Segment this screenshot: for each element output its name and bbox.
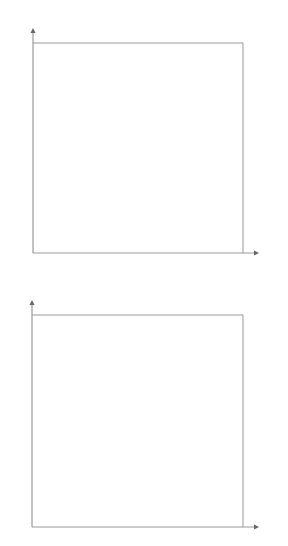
- top-y-arrow-icon: [31, 28, 36, 33]
- figure: [0, 0, 288, 546]
- top-chart: [0, 0, 259, 256]
- top-x-arrow-icon: [254, 251, 259, 256]
- bottom-x-arrow-icon: [254, 525, 259, 530]
- bottom-chart: [0, 0, 259, 530]
- bottom-y-arrow-icon: [30, 300, 35, 305]
